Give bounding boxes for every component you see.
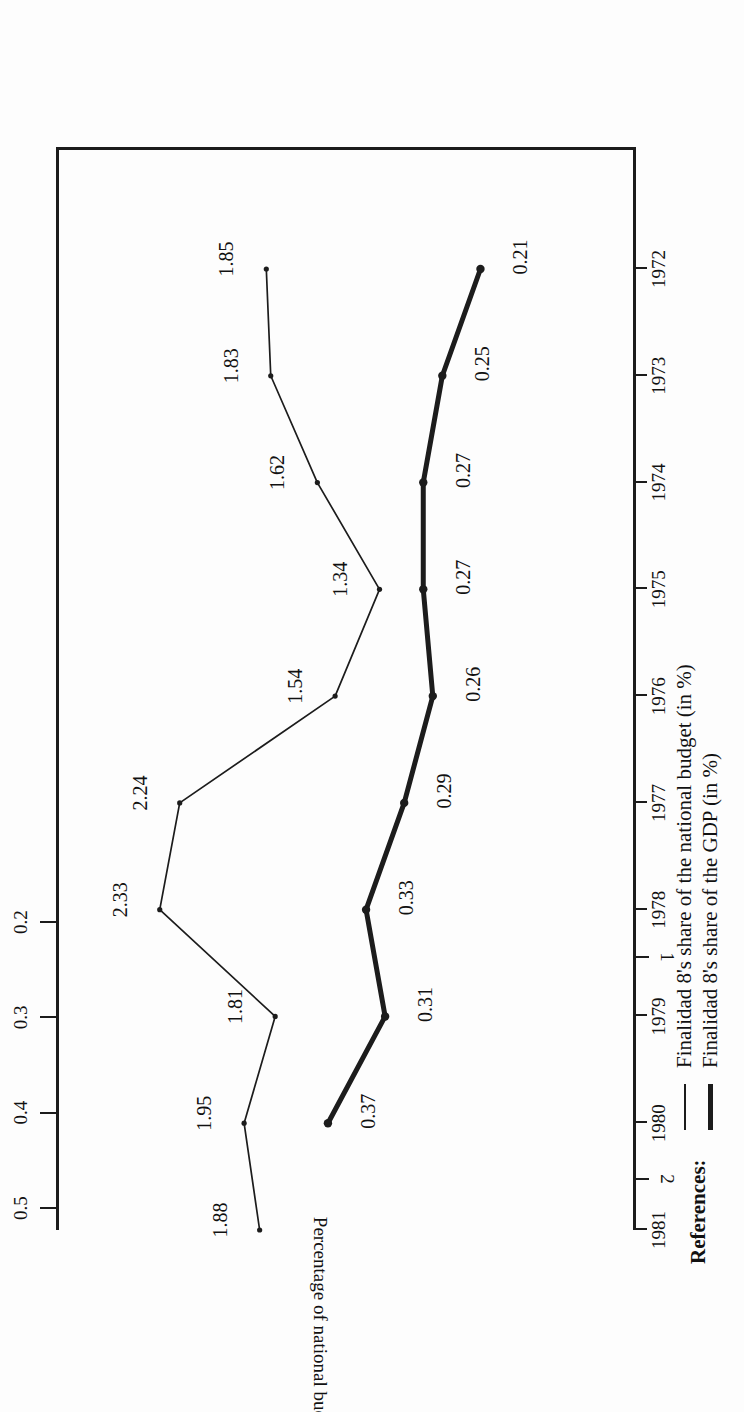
data-point-marker [157,907,162,912]
data-point-marker [315,480,320,485]
data-point-marker [438,372,446,380]
data-label-1.54: 1.54 [284,669,307,704]
data-label-0.21: 0.21 [509,240,532,275]
data-label-1.34: 1.34 [328,562,351,597]
data-point-marker [476,265,484,273]
data-label-2.24: 2.24 [128,775,151,810]
data-point-marker [419,585,427,593]
legend-swatch-thin-line [684,1084,686,1130]
data-point-marker [381,1012,389,1020]
data-point-marker [362,905,370,913]
chart-plot-area: 1972197319741975197619771978197919801981… [0,0,744,1412]
data-label-0.27: 0.27 [452,560,475,595]
data-label-1.83: 1.83 [219,348,242,383]
data-point-marker [268,373,273,378]
legend-swatch-thick-line [708,1084,713,1130]
data-label-0.27: 0.27 [452,453,475,488]
data-point-marker [257,1227,262,1232]
legend-label-gdp: Finalidad 8's share of the GDP (in %) [698,753,723,1068]
data-label-0.37: 0.37 [356,1094,379,1129]
data-label-0.33: 0.33 [395,880,418,915]
data-point-marker [429,692,437,700]
data-point-marker [273,1014,278,1019]
data-point-marker [400,799,408,807]
data-point-marker [264,266,269,271]
data-label-0.26: 0.26 [461,667,484,702]
data-point-marker [377,587,382,592]
legend-label-national-budget: Finalidad 8's share of the national budg… [672,664,697,1068]
data-label-1.88: 1.88 [208,1203,231,1238]
series-lines [0,0,744,1412]
data-label-0.25: 0.25 [471,346,494,381]
data-label-0.29: 0.29 [433,773,456,808]
rotated-figure-container: 1972197319741975197619771978197919801981… [0,0,744,1412]
data-point-marker [324,1119,332,1127]
data-label-1.81: 1.81 [224,989,247,1024]
data-point-marker [333,694,338,699]
scanned-figure-page: 1972197319741975197619771978197919801981… [0,0,744,1412]
data-label-2.33: 2.33 [108,882,131,917]
data-label-1.62: 1.62 [266,455,289,490]
series-line-2 [328,269,481,1123]
legend-title: References: [686,1159,711,1264]
data-point-marker [177,800,182,805]
data-label-1.95: 1.95 [193,1096,216,1131]
data-label-0.31: 0.31 [414,987,437,1022]
data-point-marker [419,478,427,486]
data-label-1.85: 1.85 [215,242,238,277]
data-point-marker [242,1121,247,1126]
